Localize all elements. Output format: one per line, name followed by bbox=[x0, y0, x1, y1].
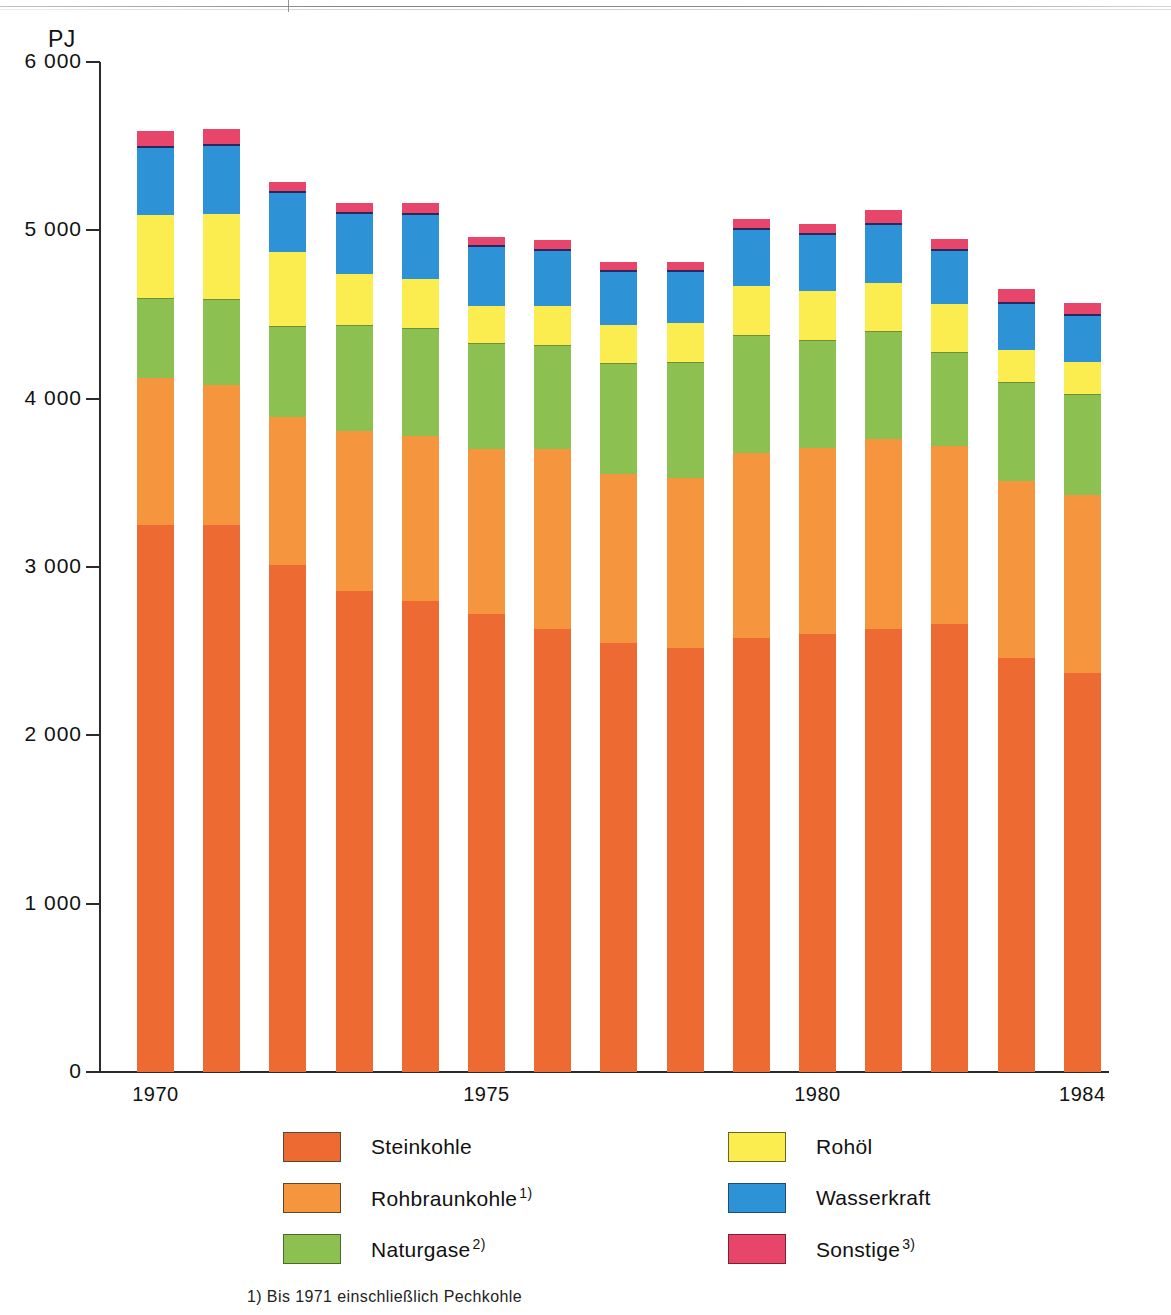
chart-plot-area: PJ 6 0005 0004 0003 0002 0001 0000 19701… bbox=[0, 0, 1171, 1315]
bar-segment-rohl bbox=[931, 304, 968, 351]
legend-swatch-rohbraunkohle bbox=[283, 1183, 341, 1213]
bar-1984 bbox=[1064, 303, 1101, 1072]
bar-segment-naturgase bbox=[203, 299, 240, 385]
bar-segment-rohl bbox=[137, 215, 174, 297]
bar-segment-rohbraunkohle bbox=[667, 478, 704, 648]
bar-segment-wasserkraft bbox=[667, 272, 704, 323]
bar-segment-wasserkraft bbox=[534, 251, 571, 307]
bar-segment-naturgase bbox=[600, 363, 637, 474]
bar-segment-naturgase bbox=[1064, 394, 1101, 495]
bar-segment-steinkohle bbox=[667, 648, 704, 1072]
bar-segment-sonstige bbox=[865, 210, 902, 225]
bar-segment-naturgase bbox=[137, 298, 174, 379]
bar-segment-sonstige bbox=[534, 240, 571, 250]
bar-segment-rohl bbox=[336, 274, 373, 325]
bar-segment-wasserkraft bbox=[1064, 316, 1101, 361]
bar-segment-rohl bbox=[865, 283, 902, 332]
bar-segment-sonstige bbox=[269, 182, 306, 194]
bar-segment-rohbraunkohle bbox=[799, 448, 836, 635]
footnote-1: 1) Bis 1971 einschließlich Pechkohle bbox=[247, 1288, 522, 1306]
legend-footnote-marker: 3) bbox=[902, 1236, 915, 1252]
bar-segment-steinkohle bbox=[269, 565, 306, 1072]
bar-segment-steinkohle bbox=[468, 614, 505, 1072]
legend-swatch-sonstige bbox=[728, 1234, 786, 1264]
bar-segment-naturgase bbox=[336, 325, 373, 431]
legend-footnote-marker: 2) bbox=[473, 1236, 486, 1252]
bar-segment-naturgase bbox=[269, 326, 306, 417]
legend-item-rohoel[interactable]: Rohöl bbox=[728, 1126, 931, 1168]
bar-segment-steinkohle bbox=[733, 638, 770, 1072]
bar-segment-sonstige bbox=[402, 203, 439, 215]
bar-segment-wasserkraft bbox=[269, 193, 306, 252]
legend-item-wasserkraft[interactable]: Wasserkraft bbox=[728, 1177, 931, 1219]
bar-segment-steinkohle bbox=[865, 629, 902, 1072]
bar-segment-rohbraunkohle bbox=[733, 453, 770, 638]
legend-label-steinkohle: Steinkohle bbox=[371, 1135, 472, 1159]
legend-column-left: SteinkohleRohbraunkohle1)Naturgase2) bbox=[283, 1126, 532, 1279]
bar-segment-sonstige bbox=[336, 203, 373, 213]
bar-segment-sonstige bbox=[733, 219, 770, 231]
legend-label-sonstige: Sonstige3) bbox=[816, 1236, 915, 1262]
legend-column-right: RohölWasserkraftSonstige3) bbox=[728, 1126, 931, 1279]
bar-segment-wasserkraft bbox=[468, 247, 505, 306]
bar-segment-wasserkraft bbox=[402, 215, 439, 279]
legend-swatch-wasserkraft bbox=[728, 1183, 786, 1213]
legend-item-steinkohle[interactable]: Steinkohle bbox=[283, 1126, 532, 1168]
bar-segment-steinkohle bbox=[402, 601, 439, 1072]
legend-label-wasserkraft: Wasserkraft bbox=[816, 1186, 931, 1210]
bar-segment-naturgase bbox=[865, 331, 902, 439]
bar-segment-naturgase bbox=[667, 362, 704, 478]
bar-segment-wasserkraft bbox=[733, 230, 770, 286]
bar-segment-sonstige bbox=[468, 237, 505, 247]
bar-segment-steinkohle bbox=[1064, 673, 1101, 1072]
bar-segment-sonstige bbox=[137, 131, 174, 148]
bar-segment-naturgase bbox=[998, 382, 1035, 481]
bar-segment-steinkohle bbox=[998, 658, 1035, 1072]
bar-1980 bbox=[799, 224, 836, 1072]
bar-segment-rohbraunkohle bbox=[998, 481, 1035, 658]
bar-segment-rohl bbox=[1064, 362, 1101, 394]
legend-footnote-marker: 1) bbox=[519, 1185, 532, 1201]
bar-1982 bbox=[931, 239, 968, 1072]
bar-segment-rohbraunkohle bbox=[402, 436, 439, 601]
bar-segment-rohbraunkohle bbox=[600, 474, 637, 642]
legend-item-sonstige[interactable]: Sonstige3) bbox=[728, 1228, 931, 1270]
bar-1970 bbox=[137, 131, 174, 1072]
bar-segment-rohl bbox=[733, 286, 770, 335]
legend-swatch-steinkohle bbox=[283, 1132, 341, 1162]
legend-label-rohoel: Rohöl bbox=[816, 1135, 872, 1159]
bar-segment-steinkohle bbox=[534, 629, 571, 1072]
bar-segment-rohbraunkohle bbox=[269, 417, 306, 565]
bar-1981 bbox=[865, 210, 902, 1072]
legend-item-naturgase[interactable]: Naturgase2) bbox=[283, 1228, 532, 1270]
bar-segment-rohbraunkohle bbox=[203, 385, 240, 525]
bar-segment-sonstige bbox=[931, 239, 968, 251]
bar-segment-wasserkraft bbox=[799, 235, 836, 291]
bar-segment-naturgase bbox=[931, 352, 968, 446]
bar-segment-naturgase bbox=[402, 328, 439, 436]
bar-segment-rohbraunkohle bbox=[534, 449, 571, 629]
bar-1972 bbox=[269, 182, 306, 1072]
bar-segment-wasserkraft bbox=[600, 272, 637, 324]
bar-segment-wasserkraft bbox=[336, 214, 373, 275]
legend-item-rohbraunkohle[interactable]: Rohbraunkohle1) bbox=[283, 1177, 532, 1219]
bar-segment-steinkohle bbox=[600, 643, 637, 1072]
legend-swatch-naturgase bbox=[283, 1234, 341, 1264]
bar-1974 bbox=[402, 203, 439, 1072]
bar-segment-naturgase bbox=[534, 345, 571, 449]
bar-segment-wasserkraft bbox=[865, 225, 902, 282]
bar-segment-sonstige bbox=[667, 262, 704, 272]
bar-segment-rohl bbox=[203, 214, 240, 300]
bar-segment-rohl bbox=[600, 325, 637, 364]
bar-segment-rohl bbox=[534, 306, 571, 345]
bar-1979 bbox=[733, 219, 770, 1072]
bar-segment-rohl bbox=[402, 279, 439, 328]
bar-segment-rohl bbox=[799, 291, 836, 340]
bar-1973 bbox=[336, 203, 373, 1072]
legend-label-naturgase: Naturgase2) bbox=[371, 1236, 486, 1262]
bar-segment-sonstige bbox=[799, 224, 836, 236]
bar-segment-steinkohle bbox=[336, 591, 373, 1072]
bar-segment-sonstige bbox=[1064, 303, 1101, 316]
bar-segment-rohbraunkohle bbox=[931, 446, 968, 624]
bar-segment-naturgase bbox=[799, 340, 836, 448]
